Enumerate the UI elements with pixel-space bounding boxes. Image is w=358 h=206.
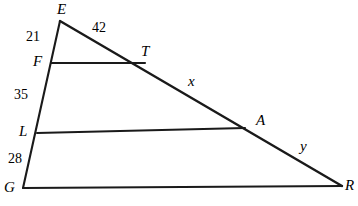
vertex-label-R: R (345, 178, 354, 193)
segment-side-ER (60, 21, 342, 186)
vertex-label-A: A (256, 113, 265, 128)
vertex-label-T: T (141, 44, 149, 59)
segment-base-GR (23, 186, 342, 188)
vertex-label-L: L (19, 124, 27, 139)
vertex-label-F: F (33, 54, 42, 69)
segment-side-EG (23, 21, 60, 188)
length-label-ET: 42 (92, 21, 106, 35)
length-label-LG: 28 (8, 152, 22, 166)
triangle-diagram-svg (0, 0, 358, 206)
segment-transversal-LA (37, 128, 245, 133)
vertex-label-G: G (4, 180, 15, 195)
vertex-label-E: E (57, 2, 66, 17)
length-label-EF: 21 (26, 30, 40, 44)
geometry-figure: E F L G R A T 21 35 28 42 x y (0, 0, 358, 206)
length-label-TA-x: x (188, 74, 195, 89)
length-label-FL: 35 (14, 88, 28, 102)
length-label-AR-y: y (300, 139, 307, 154)
